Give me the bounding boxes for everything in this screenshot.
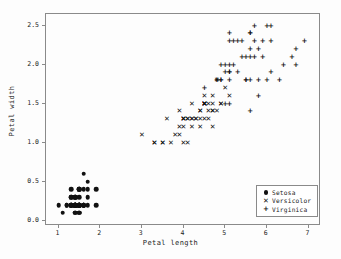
data-point-versicolor: ✕ xyxy=(201,92,207,99)
data-point-versicolor: ✕ xyxy=(151,139,157,146)
data-point-versicolor: ✕ xyxy=(193,116,199,123)
data-point-setosa xyxy=(85,203,90,208)
versicolor-marker-icon: ✕ xyxy=(260,197,272,205)
y-tick-label: 2.5 xyxy=(17,21,39,29)
legend[interactable]: Setosa ✕ Versicolor + Virginica xyxy=(256,185,318,217)
legend-item-virginica[interactable]: + Virginica xyxy=(260,205,314,214)
data-point-setosa xyxy=(77,187,82,192)
data-point-virginica: + xyxy=(201,85,207,92)
x-tick-label: 2 xyxy=(97,229,101,237)
y-tick-label: 1.5 xyxy=(17,99,39,107)
x-axis-title: Petal length xyxy=(0,239,341,247)
data-point-setosa xyxy=(60,210,65,215)
data-point-versicolor: ✕ xyxy=(185,139,191,146)
data-point-setosa xyxy=(94,203,99,208)
data-point-setosa xyxy=(69,187,74,192)
x-tick xyxy=(308,225,309,228)
data-point-setosa xyxy=(73,203,78,208)
x-tick-label: 1 xyxy=(56,229,60,237)
data-point-setosa xyxy=(85,195,90,200)
data-point-virginica: + xyxy=(260,38,266,45)
data-point-virginica: + xyxy=(281,61,287,68)
data-point-versicolor: ✕ xyxy=(168,139,174,146)
data-point-setosa xyxy=(81,203,86,208)
scatter-plot-figure: Petal width 0.00.51.01.52.02.5 1234567 ✕… xyxy=(0,0,341,259)
data-point-virginica: + xyxy=(251,22,257,29)
data-point-virginica: + xyxy=(247,53,253,60)
data-point-versicolor: ✕ xyxy=(189,124,195,131)
legend-label-virginica: Virginica xyxy=(272,206,307,213)
x-tick xyxy=(141,225,142,228)
data-point-virginica: + xyxy=(231,38,237,45)
data-point-setosa xyxy=(81,187,86,192)
x-tick-label: 5 xyxy=(222,229,226,237)
setosa-marker-icon xyxy=(260,190,272,195)
data-point-setosa xyxy=(73,195,78,200)
data-point-virginica: + xyxy=(293,61,299,68)
data-point-versicolor: ✕ xyxy=(185,116,191,123)
data-point-virginica: + xyxy=(256,92,262,99)
data-point-versicolor: ✕ xyxy=(181,124,187,131)
data-point-setosa xyxy=(85,179,90,184)
data-point-virginica: + xyxy=(268,22,274,29)
data-point-virginica: + xyxy=(256,77,262,84)
x-tick xyxy=(224,225,225,228)
data-point-virginica: + xyxy=(239,53,245,60)
data-point-versicolor: ✕ xyxy=(164,116,170,123)
data-point-setosa xyxy=(73,210,78,215)
data-point-setosa xyxy=(77,195,82,200)
data-point-virginica: + xyxy=(226,77,232,84)
data-point-versicolor: ✕ xyxy=(197,124,203,131)
data-point-virginica: + xyxy=(235,69,241,76)
virginica-marker-icon: + xyxy=(260,205,272,213)
data-point-versicolor: ✕ xyxy=(189,100,195,107)
data-point-setosa xyxy=(77,210,82,215)
legend-item-setosa[interactable]: Setosa xyxy=(260,188,314,197)
data-point-versicolor: ✕ xyxy=(210,124,216,131)
data-point-versicolor: ✕ xyxy=(139,131,145,138)
data-point-virginica: + xyxy=(260,53,266,60)
data-point-virginica: + xyxy=(243,77,249,84)
data-point-setosa xyxy=(85,187,90,192)
data-point-virginica: + xyxy=(231,61,237,68)
x-tick-label: 6 xyxy=(264,229,268,237)
data-point-setosa xyxy=(56,203,61,208)
data-point-virginica: + xyxy=(247,108,253,115)
data-point-virginica: + xyxy=(214,77,220,84)
x-tick xyxy=(99,225,100,228)
data-point-virginica: + xyxy=(293,46,299,53)
legend-item-versicolor[interactable]: ✕ Versicolor xyxy=(260,197,314,206)
legend-label-setosa: Setosa xyxy=(272,189,296,196)
data-point-virginica: + xyxy=(268,69,274,76)
data-point-virginica: + xyxy=(276,77,282,84)
data-point-setosa xyxy=(81,171,86,176)
y-tick-label: 2.0 xyxy=(17,60,39,68)
x-tick xyxy=(58,225,59,228)
y-tick-label: 0.0 xyxy=(17,216,39,224)
data-point-virginica: + xyxy=(239,38,245,45)
data-point-versicolor: ✕ xyxy=(214,108,220,115)
y-tick-label: 0.5 xyxy=(17,177,39,185)
y-tick-label: 1.0 xyxy=(17,138,39,146)
data-point-virginica: + xyxy=(247,30,253,37)
x-tick-label: 4 xyxy=(181,229,185,237)
data-point-virginica: + xyxy=(264,77,270,84)
data-point-setosa xyxy=(77,203,82,208)
x-tick-label: 3 xyxy=(139,229,143,237)
x-tick-label: 7 xyxy=(306,229,310,237)
data-point-setosa xyxy=(94,187,99,192)
x-tick xyxy=(266,225,267,228)
data-point-versicolor: ✕ xyxy=(160,139,166,146)
data-point-versicolor: ✕ xyxy=(206,108,212,115)
y-axis-title: Petal width xyxy=(8,76,16,146)
data-point-virginica: + xyxy=(247,46,253,53)
data-point-virginica: + xyxy=(226,100,232,107)
x-tick xyxy=(183,225,184,228)
data-point-virginica: + xyxy=(301,38,307,45)
legend-label-versicolor: Versicolor xyxy=(272,197,311,204)
data-point-virginica: + xyxy=(268,38,274,45)
